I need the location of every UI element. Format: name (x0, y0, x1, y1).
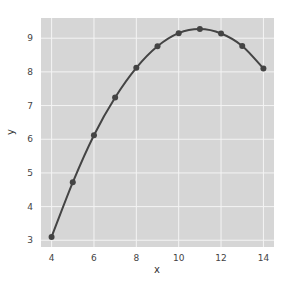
data-point (91, 132, 97, 138)
plot-area (41, 18, 274, 247)
x-tick-label: 4 (49, 253, 55, 263)
line-chart: 468101214 3456789 x y (0, 0, 289, 290)
data-point (49, 234, 55, 240)
data-point (218, 30, 224, 36)
y-axis-ticks: 3456789 (27, 33, 33, 245)
data-point (239, 43, 245, 49)
y-axis-label: y (5, 129, 16, 135)
data-point (70, 179, 76, 185)
x-tick-label: 8 (133, 253, 139, 263)
y-tick-label: 8 (27, 67, 33, 77)
data-point (176, 30, 182, 36)
data-point (260, 66, 266, 72)
y-tick-label: 4 (27, 202, 33, 212)
y-tick-label: 9 (27, 33, 33, 43)
y-tick-label: 7 (27, 101, 33, 111)
x-tick-label: 14 (258, 253, 270, 263)
y-tick-label: 3 (27, 235, 33, 245)
y-tick-label: 6 (27, 134, 33, 144)
x-tick-label: 10 (173, 253, 185, 263)
data-point (155, 43, 161, 49)
data-point (112, 94, 118, 100)
y-tick-label: 5 (27, 168, 33, 178)
x-tick-label: 12 (215, 253, 226, 263)
x-tick-label: 6 (91, 253, 97, 263)
data-point (197, 26, 203, 32)
data-point (133, 65, 139, 71)
x-axis-ticks: 468101214 (49, 253, 270, 263)
x-axis-label: x (154, 264, 160, 275)
